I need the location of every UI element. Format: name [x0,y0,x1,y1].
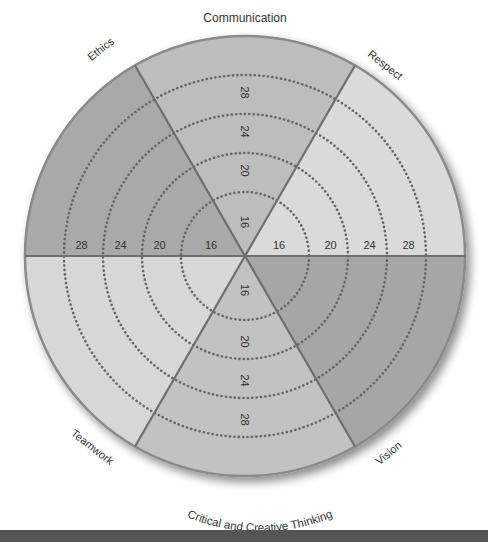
scale-label-critical-24: 24 [239,374,251,386]
scale-label-ethics-24: 24 [114,239,126,251]
segmented-wheel-diagram: 16202428162024281620242816202428 Communi… [0,0,488,542]
scale-label-respect-20: 20 [324,239,336,251]
scale-label-respect-24: 24 [363,239,375,251]
scale-label-critical-16: 16 [239,284,251,296]
scale-label-ethics-20: 20 [153,239,165,251]
scale-label-ethics-28: 28 [75,239,87,251]
scale-label-communication-24: 24 [239,125,251,137]
scale-label-communication-20: 20 [239,164,251,176]
label-ethics: Ethics [85,35,116,63]
label-communication: Communication [203,11,286,25]
scale-label-critical-28: 28 [239,413,251,425]
label-teamwork: Teamwork [69,427,116,468]
scale-label-critical-20: 20 [239,335,251,347]
label-vision: Vision [373,439,404,467]
scale-label-communication-28: 28 [239,86,251,98]
scale-label-communication-16: 16 [239,216,251,228]
scale-label-respect-28: 28 [402,239,414,251]
scale-label-ethics-16: 16 [205,239,217,251]
bottom-bar [0,530,488,542]
scale-label-respect-16: 16 [273,239,285,251]
